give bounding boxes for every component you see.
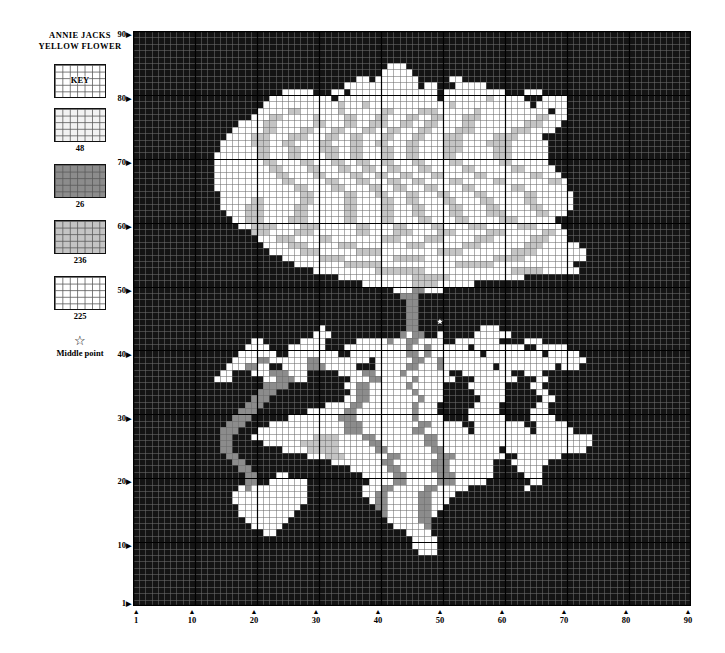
x-tick-value: 30	[312, 615, 321, 625]
tick-arrow-icon: ▶	[126, 600, 131, 608]
y-tick-30: 30▶	[118, 414, 132, 423]
x-tick-value: 50	[436, 615, 445, 625]
x-tick-value: 1	[134, 615, 138, 625]
x-tick-value: 40	[374, 615, 383, 625]
x-tick-value: 20	[250, 615, 259, 625]
y-tick-50: 50▶	[118, 286, 132, 295]
y-tick-90: 90▶	[118, 30, 132, 39]
x-tick-70: ▲70	[552, 608, 576, 625]
x-tick-30: ▲30	[304, 608, 328, 625]
y-tick-value: 20	[118, 476, 127, 486]
x-tick-value: 90	[684, 615, 693, 625]
y-tick-value: 30	[118, 413, 127, 423]
x-tick-20: ▲20	[242, 608, 266, 625]
tick-arrow-icon: ▶	[126, 159, 131, 167]
y-tick-value: 70	[118, 157, 127, 167]
tick-arrow-icon: ▶	[126, 478, 131, 486]
y-tick-40: 40▶	[118, 350, 132, 359]
tick-arrow-icon: ▶	[126, 287, 131, 295]
y-tick-1: 1▶	[122, 599, 131, 608]
x-tick-value: 70	[560, 615, 569, 625]
x-tick-80: ▲80	[614, 608, 638, 625]
pattern-grid[interactable]	[133, 31, 691, 606]
x-tick-value: 80	[622, 615, 631, 625]
x-axis-labels: ▲1▲10▲20▲30▲40▲50▲60▲70▲80▲90	[133, 608, 691, 640]
tick-arrow-icon: ▶	[126, 542, 131, 550]
tick-arrow-icon: ▶	[126, 223, 131, 231]
y-tick-10: 10▶	[118, 541, 132, 550]
y-tick-value: 60	[118, 221, 127, 231]
y-tick-value: 10	[118, 540, 127, 550]
tick-arrow-icon: ▶	[126, 95, 131, 103]
tick-arrow-icon: ▶	[126, 31, 131, 39]
tick-arrow-icon: ▶	[126, 351, 131, 359]
x-tick-1: ▲1	[124, 608, 148, 625]
x-tick-40: ▲40	[366, 608, 390, 625]
y-tick-value: 50	[118, 285, 127, 295]
cross-stitch-chart-page: ANNIE JACKS YELLOW FLOWER KEY 48 26 236 …	[0, 0, 725, 653]
y-axis-labels: 90▶80▶70▶60▶50▶40▶30▶20▶10▶1▶	[95, 31, 131, 606]
y-tick-value: 80	[118, 93, 127, 103]
y-tick-value: 40	[118, 349, 127, 359]
x-tick-10: ▲10	[180, 608, 204, 625]
x-tick-60: ▲60	[490, 608, 514, 625]
y-tick-80: 80▶	[118, 94, 132, 103]
x-tick-90: ▲90	[676, 608, 700, 625]
x-tick-value: 10	[188, 615, 197, 625]
y-tick-70: 70▶	[118, 158, 132, 167]
y-tick-60: 60▶	[118, 222, 132, 231]
pattern-grid-canvas[interactable]	[133, 31, 691, 606]
tick-arrow-icon: ▶	[126, 415, 131, 423]
x-tick-value: 60	[498, 615, 507, 625]
y-tick-value: 90	[118, 29, 127, 39]
x-tick-50: ▲50	[428, 608, 452, 625]
y-tick-20: 20▶	[118, 477, 132, 486]
